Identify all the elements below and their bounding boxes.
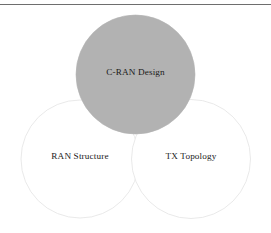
venn-diagram-canvas: C-RAN Design RAN Structure TX Topology (0, 0, 271, 233)
label-tx-topology: TX Topology (165, 151, 216, 161)
label-c-ran-design: C-RAN Design (106, 67, 165, 77)
label-ran-structure: RAN Structure (51, 151, 108, 161)
venn-diagram-figure: C-RAN Design RAN Structure TX Topology (0, 0, 271, 233)
